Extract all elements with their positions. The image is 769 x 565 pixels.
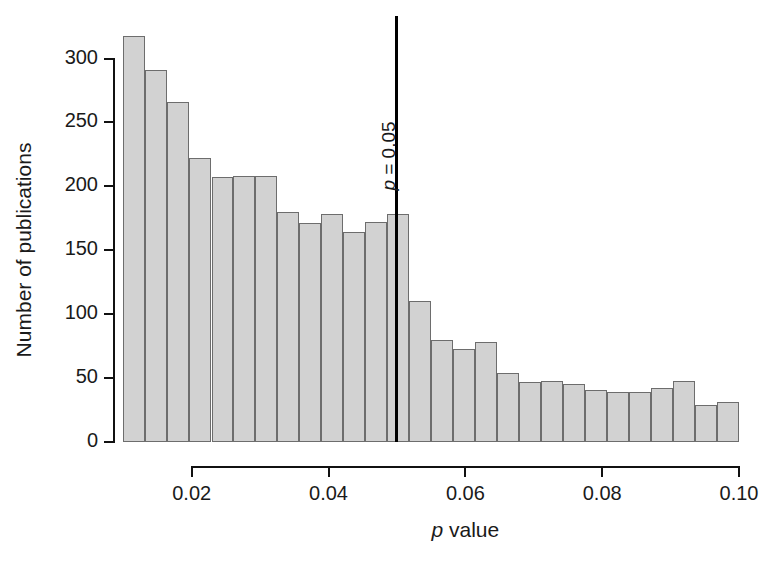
histogram-bar — [475, 342, 497, 442]
plot-area — [0, 0, 769, 565]
x-tick-mark — [738, 466, 740, 477]
histogram-bar — [189, 158, 211, 442]
x-axis-title: p value — [375, 518, 555, 542]
x-tick-label: 0.04 — [289, 482, 369, 505]
histogram-bar — [299, 223, 321, 442]
x-tick-label: 0.06 — [425, 482, 505, 505]
x-axis-title-text: value — [443, 518, 499, 541]
histogram-bar — [563, 384, 585, 442]
histogram-bar — [123, 36, 145, 442]
histogram-bar — [343, 232, 365, 442]
x-axis-title-symbol: p — [431, 518, 443, 541]
histogram-bar — [585, 390, 607, 442]
histogram-bar — [365, 222, 387, 442]
histogram-bar — [629, 392, 651, 442]
histogram-bar — [233, 176, 255, 442]
histogram-bar — [651, 388, 673, 442]
histogram-bar — [409, 301, 431, 442]
histogram-bar — [212, 177, 234, 442]
x-tick-mark — [328, 466, 330, 477]
histogram-bar — [431, 340, 453, 442]
histogram-bar — [717, 402, 739, 442]
x-tick-label: 0.10 — [699, 482, 769, 505]
histogram-bar — [541, 381, 563, 442]
histogram-figure: Number of publications 05010015020025030… — [0, 0, 769, 565]
p-threshold-value: = 0.05 — [378, 121, 399, 180]
histogram-bar — [497, 373, 519, 442]
histogram-bar — [453, 349, 475, 442]
x-tick-label: 0.08 — [562, 482, 642, 505]
histogram-bar — [277, 212, 299, 442]
x-tick-mark — [191, 466, 193, 477]
histogram-bar — [695, 405, 717, 442]
x-tick-mark — [601, 466, 603, 477]
histogram-bar — [607, 392, 629, 442]
histogram-bar — [255, 176, 277, 442]
p-threshold-symbol: p — [378, 180, 399, 191]
p-threshold-line — [395, 16, 398, 442]
x-tick-mark — [464, 466, 466, 477]
histogram-bar — [167, 102, 189, 442]
histogram-bar — [321, 214, 343, 442]
histogram-bar — [673, 381, 695, 442]
x-tick-label: 0.02 — [152, 482, 232, 505]
histogram-bar — [519, 382, 541, 442]
histogram-bar — [145, 70, 167, 442]
p-threshold-label: p = 0.05 — [378, 106, 400, 206]
